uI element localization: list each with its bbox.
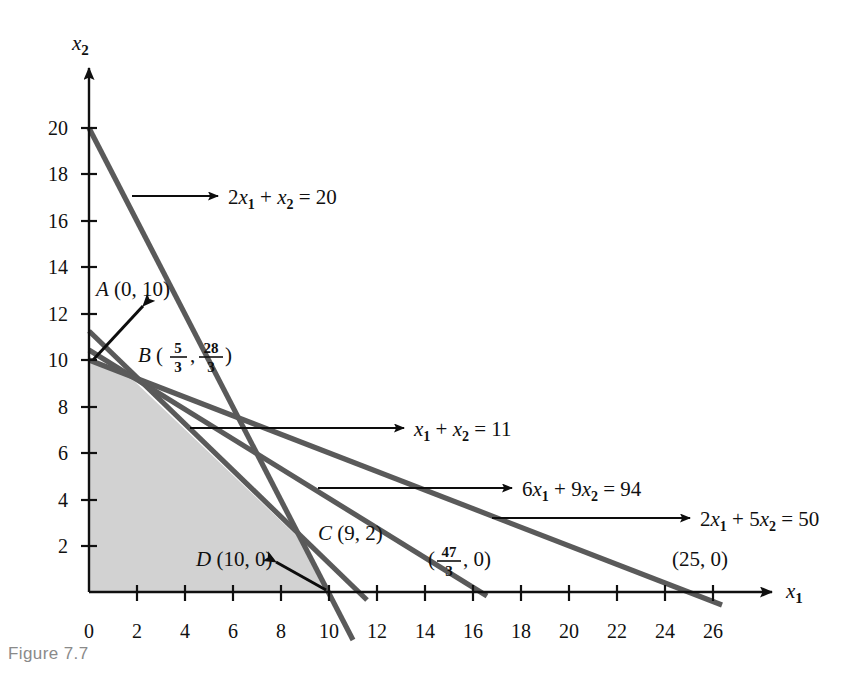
- vertex-label-b-point: B: [138, 343, 151, 367]
- vertex-label-a: A (0, 10): [94, 277, 170, 301]
- intercept-label-25-0: (25, 0): [672, 547, 728, 571]
- vertex-label-b-open: (: [151, 343, 163, 367]
- vertex-label-b: B ( 5 3 , 28 3 ): [138, 340, 232, 375]
- y-tick-label: 16: [48, 210, 68, 232]
- figure-container: 0 2 4 6 8 10 12 14 16 18 20 22 24 26 2 4…: [0, 0, 862, 684]
- x-tick-label: 22: [607, 620, 627, 642]
- y-tick-label: 2: [58, 535, 68, 557]
- vertex-label-d: D (10, 0): [195, 547, 272, 571]
- vertex-label-b-den2: 3: [207, 359, 215, 375]
- linear-programming-graph: 0 2 4 6 8 10 12 14 16 18 20 22 24 26 2 4…: [0, 0, 862, 684]
- equation-label-x1-x2-11: x1 + x2 = 11: [413, 417, 512, 444]
- x-tick-label: 0: [84, 620, 94, 642]
- x-tick-label: 10: [319, 620, 339, 642]
- figure-caption: Figure 7.7: [8, 644, 89, 664]
- vertex-arrow-a: [93, 306, 143, 360]
- y-tick-label: 18: [48, 163, 68, 185]
- x-tick-label: 20: [559, 620, 579, 642]
- x-tick-label: 24: [655, 620, 675, 642]
- x-tick-label: 16: [463, 620, 483, 642]
- y-tick-label: 10: [48, 349, 68, 371]
- y-tick-label: 12: [48, 303, 68, 325]
- vertex-label-b-num2: 28: [204, 340, 219, 356]
- y-tick-label: 20: [48, 117, 68, 139]
- vertex-label-b-comma: ,: [190, 343, 195, 367]
- vertex-label-b-den1: 3: [174, 359, 182, 375]
- x-tick-label: 14: [415, 620, 435, 642]
- x-tick-label: 18: [511, 620, 531, 642]
- x-tick-label: 6: [228, 620, 238, 642]
- equation-label-2x1-x2-20: 2x1 + x2 = 20: [228, 185, 337, 212]
- intercept-label-47-3: ( 47 3 , 0): [428, 544, 491, 579]
- x-axis-tick-labels: 0 2 4 6 8 10 12 14 16 18 20 22 24 26: [84, 620, 723, 642]
- vertex-label-c: C (9, 2): [318, 521, 383, 545]
- svg-text:B (: B (: [138, 343, 163, 367]
- y-axis-tick-labels: 2 4 6 8 10 12 14 16 18 20: [48, 117, 68, 557]
- x-tick-label: 26: [703, 620, 723, 642]
- y-tick-label: 4: [58, 489, 68, 511]
- y-tick-label: 14: [48, 256, 68, 278]
- x-tick-label: 12: [367, 620, 387, 642]
- intercept-denominator: 3: [445, 563, 453, 579]
- equation-label-2x1-5x2-50: 2x1 + 5x2 = 50: [700, 507, 819, 534]
- y-axis-label: x2: [71, 31, 89, 58]
- x-tick-label: 4: [180, 620, 190, 642]
- x-tick-label: 8: [276, 620, 286, 642]
- equation-label-6x1-9x2-94: 6x1 + 9x2 = 94: [522, 477, 642, 504]
- vertex-label-b-num1: 5: [174, 340, 182, 356]
- x-axis-label: x1: [785, 579, 803, 606]
- intercept-close-text: , 0): [463, 547, 491, 571]
- y-tick-label: 6: [58, 442, 68, 464]
- x-tick-label: 2: [132, 620, 142, 642]
- intercept-open-paren: (: [428, 547, 435, 571]
- y-tick-label: 8: [58, 396, 68, 418]
- intercept-numerator: 47: [442, 544, 458, 560]
- vertex-label-b-close: ): [225, 343, 232, 367]
